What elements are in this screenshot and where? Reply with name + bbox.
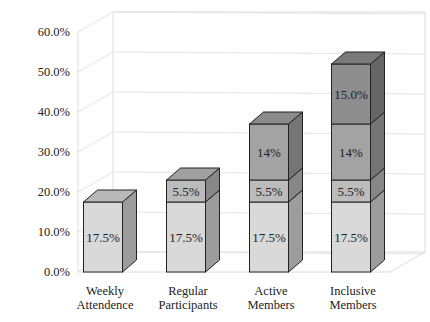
segment-value-label: 14% [339,145,363,160]
y-tick-label: 0.0% [44,265,70,279]
y-tick-label: 30.0% [38,145,70,159]
segment-value-label: 14% [257,145,281,160]
bar-side-face [206,190,220,272]
stacked-3d-bar-chart: 0.0%10.0%20.0%30.0%40.0%50.0%60.0% 17.5%… [0,0,430,322]
bars: 17.5%17.5%5.5%17.5%5.5%14%17.5%5.5%14%15… [84,52,385,272]
bar-side-face [289,190,303,272]
bar-stack: 17.5% [84,190,137,272]
y-tick-label: 60.0% [38,25,70,39]
y-tick-label: 10.0% [38,225,70,239]
bar-stack: 17.5%5.5% [167,168,220,272]
segment-value-label: 5.5% [337,184,364,199]
segment-value-label: 17.5% [334,230,368,245]
x-category-label: Participants [158,298,217,312]
y-axis-ticks: 0.0%10.0%20.0%30.0%40.0%50.0%60.0% [38,25,70,279]
segment-value-label: 17.5% [252,230,286,245]
x-axis-categories: WeeklyAttendenceRegularParticipantsActiv… [77,284,377,312]
y-tick-label: 50.0% [38,65,70,79]
segment-value-label: 5.5% [172,184,199,199]
x-category-label: Attendence [77,298,134,312]
segment-value-label: 17.5% [169,230,203,245]
x-category-label: Inclusive [330,284,376,298]
x-category-label: Weekly [86,284,125,298]
x-category-label: Regular [168,284,208,298]
x-category-label: Members [329,298,376,312]
segment-value-label: 17.5% [86,230,120,245]
x-category-label: Members [247,298,294,312]
x-category-label: Active [254,284,288,298]
y-tick-label: 40.0% [38,105,70,119]
bar-stack: 17.5%5.5%14% [250,112,303,272]
segment-value-label: 15.0% [334,87,368,102]
y-tick-label: 20.0% [38,185,70,199]
bar-side-face [123,190,137,272]
segment-value-label: 5.5% [255,184,282,199]
bar-stack: 17.5%5.5%14%15.0% [332,52,385,272]
bar-side-face [371,190,385,272]
